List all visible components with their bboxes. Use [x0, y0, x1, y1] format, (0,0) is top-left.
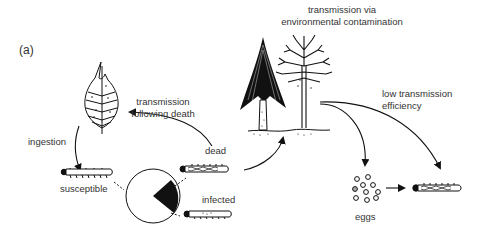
label-low-line2: efficiency	[382, 100, 452, 112]
dash-susceptible	[114, 182, 124, 190]
label-low-transmission: low transmission efficiency	[382, 88, 452, 112]
label-environmental-transmission: transmission via environmental contamina…	[262, 4, 422, 28]
deciduous-tree-icon	[276, 35, 332, 128]
label-death-line1: transmission	[128, 96, 198, 108]
larva-susceptible-icon	[61, 168, 112, 178]
label-ingestion: ingestion	[28, 136, 66, 148]
label-death-transmission: transmission following death	[128, 96, 198, 120]
diagram-artwork	[0, 0, 482, 238]
larva-dead-icon	[180, 164, 228, 172]
arrow-to-environment	[244, 138, 283, 170]
arrow-ingestion	[75, 126, 80, 170]
label-death-line2: following death	[128, 108, 198, 120]
larva-final-icon	[413, 183, 461, 191]
soil-dots	[253, 133, 311, 135]
label-low-line1: low transmission	[382, 88, 452, 100]
infection-pie-icon	[126, 169, 180, 223]
label-infected: infected	[202, 194, 235, 206]
label-eggs: eggs	[355, 211, 376, 223]
leaf-icon	[85, 62, 118, 134]
panel-label: (a)	[19, 44, 34, 56]
label-dead: dead	[205, 145, 226, 157]
conifer-tree-icon	[240, 37, 286, 130]
label-env-line1: transmission via	[262, 4, 422, 16]
label-env-line2: environmental contamination	[262, 16, 422, 28]
eggs-cluster-icon	[353, 175, 381, 203]
arrow-env-to-eggs	[320, 104, 365, 165]
larva-infected-icon	[184, 211, 231, 219]
label-susceptible: susceptible	[60, 183, 108, 195]
